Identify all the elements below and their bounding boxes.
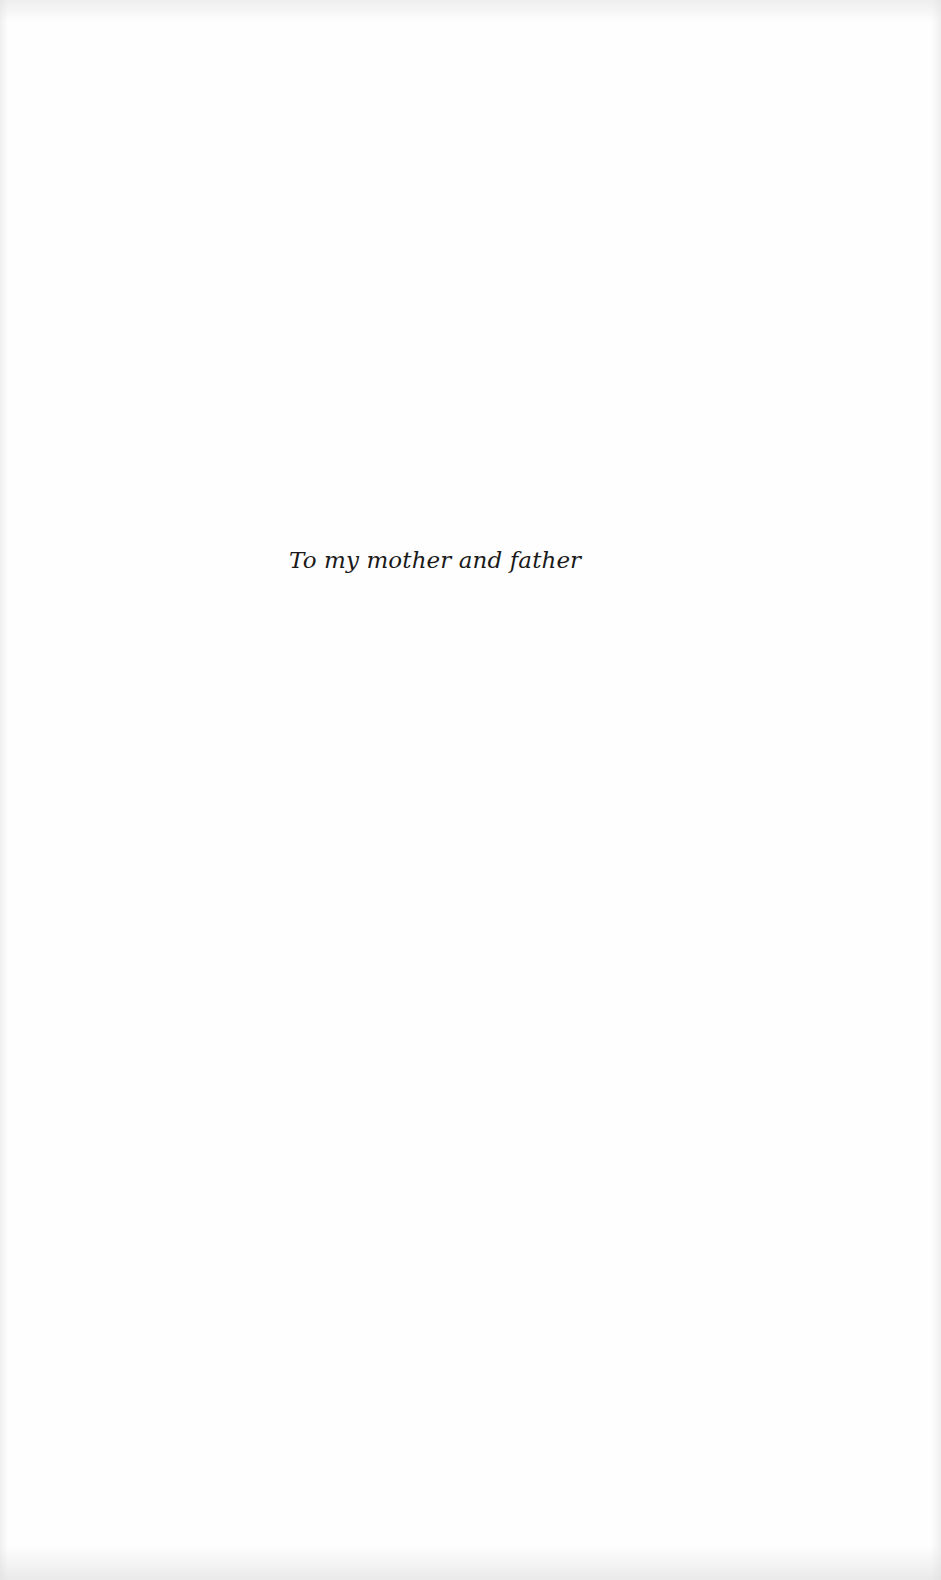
scan-edge-bottom <box>0 1546 941 1580</box>
scan-edge-left <box>0 0 8 1580</box>
scan-edge-right <box>931 0 941 1580</box>
dedication-page: To my mother and father <box>0 0 941 1580</box>
dedication-text: To my mother and father <box>289 542 581 578</box>
scan-edge-top <box>0 0 941 22</box>
